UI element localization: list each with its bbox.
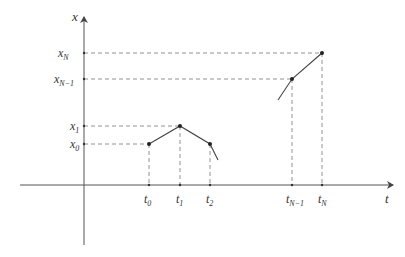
y-tick-xN-1: xN−1 xyxy=(53,72,74,88)
x-tick-tN: tN xyxy=(318,192,327,208)
y-tick-x1: x1 xyxy=(69,119,79,135)
diagram-canvas: x t xN xN−1 x1 x0 t0 t1 t2 tN xyxy=(0,0,405,257)
y-tick-x0: x0 xyxy=(69,137,79,153)
y-tick-xN: xN xyxy=(57,46,69,62)
x-tick-t0: t0 xyxy=(144,192,151,208)
axis-ticks xyxy=(83,52,323,186)
point-t1 xyxy=(178,124,182,128)
point-t0 xyxy=(147,142,151,146)
trajectory xyxy=(149,53,322,160)
x-tick-t2: t2 xyxy=(206,192,213,208)
x-tick-tN-1: tN−1 xyxy=(286,192,304,208)
guide-lines xyxy=(84,53,322,185)
x-axis-label: t xyxy=(385,191,389,206)
y-axis-label: x xyxy=(71,9,78,24)
x-tick-t1: t1 xyxy=(176,192,183,208)
data-points xyxy=(147,51,324,146)
point-t2 xyxy=(208,142,212,146)
point-tN-1 xyxy=(290,77,294,81)
point-tN xyxy=(320,51,324,55)
